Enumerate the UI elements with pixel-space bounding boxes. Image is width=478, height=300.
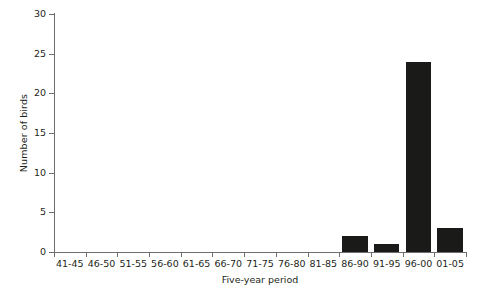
x-axis-title: Five-year period xyxy=(54,274,466,286)
y-axis-tick xyxy=(49,173,54,174)
x-axis-tick xyxy=(403,252,404,257)
x-axis-line xyxy=(54,252,466,253)
x-axis-tick xyxy=(308,252,309,257)
y-axis-tick xyxy=(49,212,54,213)
bar xyxy=(437,228,462,252)
x-axis-tick xyxy=(149,252,150,257)
x-axis-tick xyxy=(276,252,277,257)
x-axis-tick xyxy=(181,252,182,257)
x-axis-tick-label: 76-80 xyxy=(276,258,308,270)
x-axis-tick-label: 61-65 xyxy=(181,258,213,270)
y-axis-tick xyxy=(49,14,54,15)
x-axis-tick xyxy=(86,252,87,257)
x-axis-tick-label: 41-45 xyxy=(54,258,86,270)
bar xyxy=(342,236,367,252)
x-axis-tick-label: 51-55 xyxy=(117,258,149,270)
x-axis-tick xyxy=(117,252,118,257)
y-axis-tick xyxy=(49,133,54,134)
x-axis-tick-label: 96-00 xyxy=(403,258,435,270)
y-axis-tick-label: 0 xyxy=(2,247,46,257)
plot-area xyxy=(54,14,465,252)
x-axis-tick-label: 01-05 xyxy=(434,258,466,270)
x-axis-tick xyxy=(466,252,467,257)
x-axis-tick xyxy=(54,252,55,257)
x-axis-tick-label: 56-60 xyxy=(149,258,181,270)
bar-chart-figure: Number of birds 051015202530 Five-year p… xyxy=(0,0,478,300)
y-axis-tick-label: 5 xyxy=(2,207,46,217)
x-axis-tick-label: 71-75 xyxy=(244,258,276,270)
bar xyxy=(374,244,399,252)
y-axis-tick xyxy=(49,93,54,94)
y-axis-tick-label: 15 xyxy=(2,128,46,138)
x-axis-tick-label: 91-95 xyxy=(371,258,403,270)
y-axis-tick xyxy=(49,54,54,55)
x-axis-tick xyxy=(371,252,372,257)
x-axis-tick xyxy=(434,252,435,257)
x-axis-tick xyxy=(244,252,245,257)
x-axis-tick-label: 66-70 xyxy=(212,258,244,270)
x-axis-tick xyxy=(339,252,340,257)
y-axis-tick-label: 30 xyxy=(2,9,46,19)
x-axis-tick-label: 46-50 xyxy=(86,258,118,270)
bar xyxy=(406,62,431,252)
x-axis-tick-label: 81-85 xyxy=(308,258,340,270)
y-axis-tick-label-group: 051015202530 xyxy=(0,0,46,300)
y-axis-tick-label: 20 xyxy=(2,88,46,98)
x-axis-tick xyxy=(212,252,213,257)
y-axis-tick-label: 25 xyxy=(2,49,46,59)
y-axis-tick-label: 10 xyxy=(2,168,46,178)
x-axis-tick-label: 86-90 xyxy=(339,258,371,270)
